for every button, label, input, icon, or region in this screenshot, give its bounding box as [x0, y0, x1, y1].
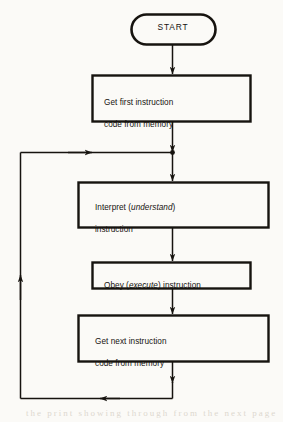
node-get-next-instruction-shape	[79, 316, 269, 362]
flowchart-page: START Get first instruction code from me…	[0, 0, 283, 422]
loop-junction-dot	[170, 150, 175, 155]
node-start-label: START	[131, 22, 215, 32]
node-obey-instruction-shape	[93, 263, 251, 289]
flowchart-canvas	[0, 0, 283, 422]
node-interpret-instruction-shape	[79, 183, 269, 228]
node-get-first-instruction-shape	[93, 76, 251, 122]
